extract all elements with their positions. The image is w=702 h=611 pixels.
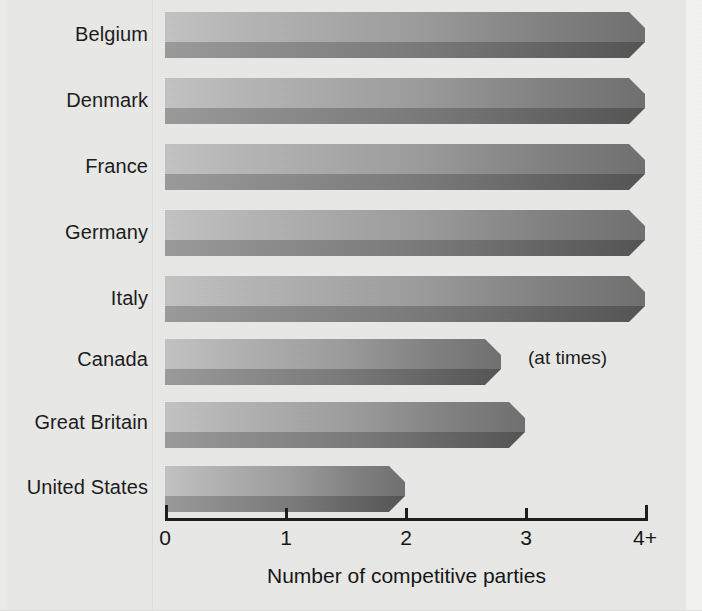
category-label-germany: Germany bbox=[0, 222, 148, 242]
bar-bottom-face bbox=[165, 369, 501, 385]
bar-annotation-canada: (at times) bbox=[528, 348, 607, 367]
bar-belgium bbox=[165, 12, 645, 58]
bar-france bbox=[165, 144, 645, 190]
bar-end-chamfer bbox=[485, 339, 501, 385]
bar-top-face bbox=[165, 402, 525, 432]
category-label-france: France bbox=[0, 156, 148, 176]
bar-end-chamfer bbox=[629, 78, 645, 124]
bar-top-face bbox=[165, 339, 501, 369]
bar-canada bbox=[165, 339, 501, 385]
page-right-margin bbox=[686, 0, 702, 611]
bar-bottom-face bbox=[165, 306, 645, 322]
label-gutter-divider bbox=[152, 0, 153, 611]
bar-top-face bbox=[165, 78, 645, 108]
x-axis-tick-2 bbox=[405, 508, 408, 518]
bar-end-chamfer bbox=[629, 276, 645, 322]
x-axis-tick-4p bbox=[645, 505, 648, 518]
bar-chart-figure: Belgium Denmark France Germany Italy Can… bbox=[0, 0, 702, 611]
bar-great-britain bbox=[165, 402, 525, 448]
bar-end-chamfer bbox=[629, 210, 645, 256]
x-axis-tick-label-3: 3 bbox=[506, 527, 546, 548]
bar-bottom-face bbox=[165, 432, 525, 448]
x-axis-line bbox=[165, 518, 648, 521]
category-label-belgium: Belgium bbox=[0, 24, 148, 44]
bar-end-chamfer bbox=[509, 402, 525, 448]
x-axis-tick-0 bbox=[165, 505, 168, 518]
bar-end-chamfer bbox=[389, 466, 405, 512]
bar-end-chamfer bbox=[629, 12, 645, 58]
bar-top-face bbox=[165, 276, 645, 306]
x-axis-tick-label-4p: 4+ bbox=[622, 527, 668, 548]
x-axis-tick-label-2: 2 bbox=[386, 527, 426, 548]
bar-denmark bbox=[165, 78, 645, 124]
bar-top-face bbox=[165, 12, 645, 42]
bar-bottom-face bbox=[165, 174, 645, 190]
bar-italy bbox=[165, 276, 645, 322]
bar-top-face bbox=[165, 210, 645, 240]
bar-germany bbox=[165, 210, 645, 256]
bar-bottom-face bbox=[165, 42, 645, 58]
bar-end-chamfer bbox=[629, 144, 645, 190]
x-axis-title: Number of competitive parties bbox=[165, 565, 648, 586]
category-label-italy: Italy bbox=[0, 288, 148, 308]
bar-top-face bbox=[165, 144, 645, 174]
x-axis-tick-label-1: 1 bbox=[266, 527, 306, 548]
x-axis-tick-1 bbox=[285, 508, 288, 518]
x-axis-tick-label-0: 0 bbox=[145, 527, 185, 548]
category-label-great-britain: Great Britain bbox=[0, 412, 148, 432]
category-label-united-states: United States bbox=[0, 477, 148, 497]
category-label-canada: Canada bbox=[0, 349, 148, 369]
bar-top-face bbox=[165, 466, 405, 496]
x-axis-tick-3 bbox=[525, 508, 528, 518]
bar-bottom-face bbox=[165, 108, 645, 124]
category-label-denmark: Denmark bbox=[0, 90, 148, 110]
bar-bottom-face bbox=[165, 240, 645, 256]
bar-united-states bbox=[165, 466, 405, 512]
